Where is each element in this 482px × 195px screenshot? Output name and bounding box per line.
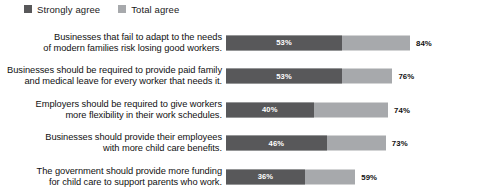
legend-item-total-agree: Total agree [118, 4, 179, 15]
bar-segment-total-agree: 36% [226, 169, 355, 184]
bar-track: 46% [226, 136, 386, 151]
bar-value-strongly-agree: 46% [269, 139, 285, 147]
category-label-line: with more child care benefits. [0, 143, 222, 154]
square-swatch-icon [24, 5, 32, 13]
bar-value-strongly-agree: 36% [258, 173, 274, 181]
category-label: Businesses should be required to provide… [0, 65, 226, 87]
bar-area: 46%73% [226, 127, 482, 161]
bar-segment-strongly-agree: 46% [226, 136, 327, 151]
bar-value-total-agree: 76% [398, 72, 414, 81]
bar-segment-strongly-agree: 53% [226, 35, 342, 50]
square-swatch-icon [118, 5, 126, 13]
category-label-line: more flexibility in their work schedules… [0, 110, 222, 121]
chart-row: Businesses should provide their employee… [0, 127, 482, 161]
category-label-line: The government should provide more fundi… [0, 166, 222, 177]
chart-row: Businesses should be required to provide… [0, 60, 482, 94]
bar-area: 36%59% [226, 160, 482, 194]
legend-item-strongly-agree: Strongly agree [24, 4, 100, 15]
bar-area: 53%84% [226, 26, 482, 60]
category-label: Employers should be required to give wor… [0, 99, 226, 121]
category-label: Businesses that fail to adapt to the nee… [0, 32, 226, 54]
category-label-line: of modern families risk losing good work… [0, 43, 222, 54]
category-label-line: for child care to support parents who wo… [0, 177, 222, 188]
chart-legend: Strongly agree Total agree [24, 2, 179, 16]
bar-segment-total-agree: 53% [226, 35, 410, 50]
category-label: The government should provide more fundi… [0, 166, 226, 188]
bar-value-total-agree: 73% [392, 139, 408, 148]
chart-row: The government should provide more fundi… [0, 160, 482, 194]
legend-label-strongly-agree: Strongly agree [37, 4, 100, 15]
bar-segment-total-agree: 40% [226, 102, 388, 117]
bar-value-total-agree: 74% [394, 105, 410, 114]
category-label: Businesses should provide their employee… [0, 132, 226, 154]
chart-rows: Businesses that fail to adapt to the nee… [0, 26, 482, 194]
bar-segment-strongly-agree: 36% [226, 169, 305, 184]
category-label-line: Businesses should be required to provide… [0, 65, 222, 76]
category-label-line: Employers should be required to give wor… [0, 99, 222, 110]
legend-label-total-agree: Total agree [131, 4, 179, 15]
bar-value-total-agree: 59% [361, 172, 377, 181]
bar-segment-total-agree: 46% [226, 136, 386, 151]
bar-value-total-agree: 84% [416, 38, 432, 47]
bar-value-strongly-agree: 40% [262, 106, 278, 114]
bar-value-strongly-agree: 53% [276, 39, 292, 47]
category-label-line: and medical leave for every worker that … [0, 76, 222, 87]
category-label-line: Businesses should provide their employee… [0, 132, 222, 143]
bar-track: 53% [226, 35, 410, 50]
category-label-line: Businesses that fail to adapt to the nee… [0, 32, 222, 43]
chart-row: Businesses that fail to adapt to the nee… [0, 26, 482, 60]
stacked-bar-chart: Strongly agree Total agree Businesses th… [0, 0, 482, 195]
bar-value-strongly-agree: 53% [276, 72, 292, 80]
bar-track: 53% [226, 69, 392, 84]
bar-track: 40% [226, 102, 388, 117]
bar-area: 53%76% [226, 60, 482, 94]
chart-row: Employers should be required to give wor… [0, 93, 482, 127]
bar-segment-total-agree: 53% [226, 69, 392, 84]
bar-segment-strongly-agree: 53% [226, 69, 342, 84]
bar-track: 36% [226, 169, 355, 184]
bar-segment-strongly-agree: 40% [226, 102, 314, 117]
bar-area: 40%74% [226, 93, 482, 127]
